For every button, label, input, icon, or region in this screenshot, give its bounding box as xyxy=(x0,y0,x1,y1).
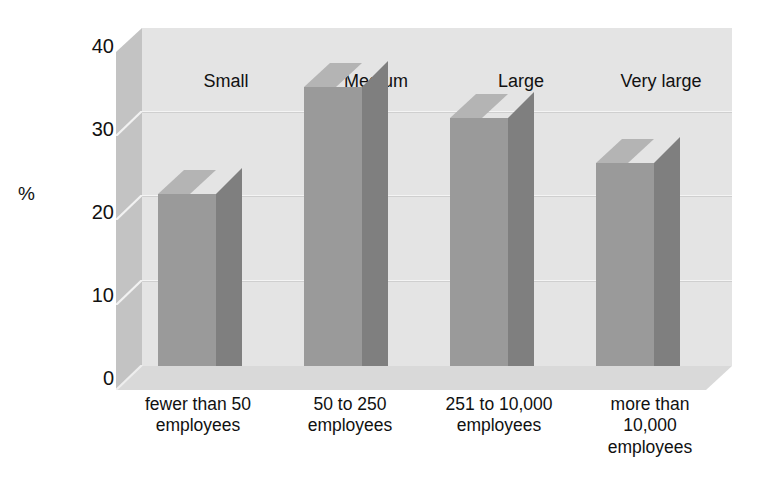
plot-floor xyxy=(116,366,732,390)
bar-chart: % 40 30 20 10 0 Small Medium Large xyxy=(0,0,763,478)
category-label-very-large-line1: more than xyxy=(570,394,730,415)
category-top-label-small: Small xyxy=(156,72,296,90)
bar-small xyxy=(158,194,216,366)
category-label-very-large: more than 10,000 employees xyxy=(570,394,730,458)
bar-very-large-front-face xyxy=(596,163,654,366)
plot-left-wall xyxy=(116,28,142,390)
category-label-small: fewer than 50 employees xyxy=(118,394,278,437)
plot-area: Small Medium Large Very large xyxy=(116,28,732,390)
category-top-label-large: Large xyxy=(446,72,596,90)
bar-very-large xyxy=(596,163,654,366)
y-tick-label-0: 0 xyxy=(68,368,114,388)
bar-very-large-side-face xyxy=(654,137,680,366)
category-label-very-large-line3: employees xyxy=(570,437,730,458)
y-axis-tick-labels: 40 30 20 10 0 xyxy=(68,0,114,478)
y-axis-title: % xyxy=(18,184,35,203)
y-tick-label-20: 20 xyxy=(68,202,114,222)
bar-large-front-face xyxy=(450,118,508,366)
y-tick-label-40: 40 xyxy=(68,36,114,56)
category-label-large-line2: employees xyxy=(414,415,584,436)
y-tick-label-30: 30 xyxy=(68,119,114,139)
category-label-large: 251 to 10,000 employees xyxy=(414,394,584,437)
category-label-medium-line1: 50 to 250 xyxy=(270,394,430,415)
bar-medium-side-face xyxy=(362,61,388,366)
category-label-medium: 50 to 250 employees xyxy=(270,394,430,437)
bar-small-side-face xyxy=(216,168,242,366)
category-label-medium-line2: employees xyxy=(270,415,430,436)
bar-large-side-face xyxy=(508,92,534,366)
bar-large xyxy=(450,118,508,366)
gridline-30 xyxy=(142,111,732,112)
bar-small-front-face xyxy=(158,194,216,366)
bar-medium-front-face xyxy=(304,87,362,366)
category-label-small-line2: employees xyxy=(118,415,278,436)
category-label-large-line1: 251 to 10,000 xyxy=(414,394,584,415)
y-tick-label-10: 10 xyxy=(68,285,114,305)
category-label-very-large-line2: 10,000 xyxy=(570,415,730,436)
category-label-small-line1: fewer than 50 xyxy=(118,394,278,415)
category-top-label-very-large: Very large xyxy=(586,72,736,90)
bar-medium xyxy=(304,87,362,366)
